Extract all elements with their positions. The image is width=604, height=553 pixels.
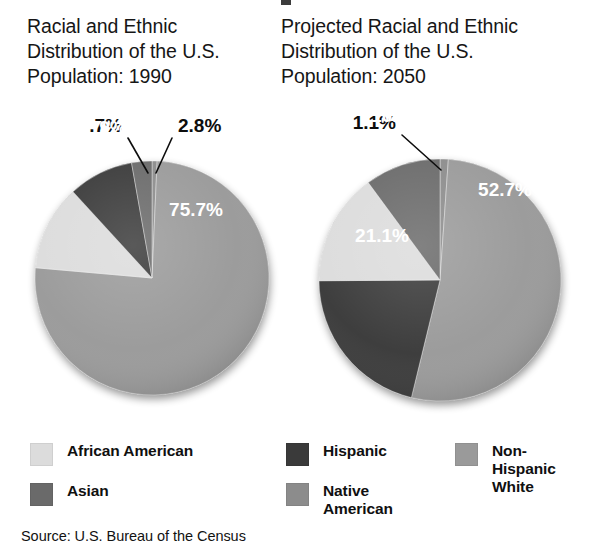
legend-swatch-asian bbox=[30, 483, 53, 506]
legend-item-hispanic: Hispanic bbox=[286, 442, 387, 466]
slice-percent-label: 2.8% bbox=[178, 115, 221, 136]
legend-label-hispanic: Hispanic bbox=[323, 442, 387, 460]
slice-percent-label: 10.1% bbox=[371, 105, 425, 126]
legend-item-non-hispanic-white: Non-Hispanic White bbox=[455, 442, 590, 496]
pie-chart-1990: .7%75.7%11.8%9%2.8% bbox=[35, 115, 269, 395]
pie-chart-svg: .7%75.7%11.8%9%2.8%1.1%52.7%21.1%15%10.1… bbox=[0, 104, 604, 434]
source-note: Source: U.S. Bureau of the Census bbox=[21, 528, 246, 544]
legend-label-native-american: Native American bbox=[323, 482, 393, 518]
legend-swatch-hispanic bbox=[286, 443, 309, 466]
legend-item-native-american: Native American bbox=[286, 482, 393, 518]
chart-titles: Racial and Ethnic Distribution of the U.… bbox=[0, 10, 604, 105]
cropped-header-fragment bbox=[281, 0, 291, 5]
page-title-2050: Projected Racial and Ethnic Distribution… bbox=[281, 14, 591, 89]
chart-legend: African American Asian Hispanic Native A… bbox=[30, 442, 590, 520]
legend-item-african-american: African American bbox=[30, 442, 193, 466]
legend-item-asian: Asian bbox=[30, 482, 109, 506]
pie-charts-container: .7%75.7%11.8%9%2.8%1.1%52.7%21.1%15%10.1… bbox=[0, 104, 604, 434]
slice-percent-label: 9% bbox=[99, 117, 127, 138]
page-title-1990: Racial and Ethnic Distribution of the U.… bbox=[27, 14, 257, 89]
slice-percent-label: 15% bbox=[339, 147, 377, 168]
chart-figure: Racial and Ethnic Distribution of the U.… bbox=[0, 0, 604, 553]
slice-percent-label: 52.7% bbox=[478, 179, 532, 200]
legend-label-non-hispanic-white: Non-Hispanic White bbox=[492, 442, 590, 496]
slice-percent-label: 75.7% bbox=[169, 199, 223, 220]
legend-swatch-native-american bbox=[286, 483, 309, 506]
legend-label-african-american: African American bbox=[67, 442, 193, 460]
pie-chart-2050: 1.1%52.7%21.1%15%10.1% bbox=[319, 105, 561, 401]
slice-percent-label: 21.1% bbox=[355, 225, 409, 246]
legend-swatch-african-american bbox=[30, 443, 53, 466]
legend-swatch-non-hispanic-white bbox=[455, 443, 478, 466]
legend-label-asian: Asian bbox=[67, 482, 109, 500]
